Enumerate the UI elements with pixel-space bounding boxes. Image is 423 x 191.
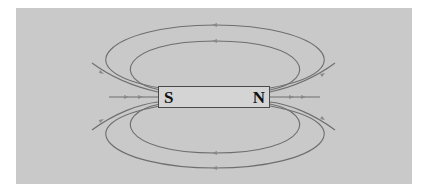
arrow-icon [301,95,306,99]
arrow-icon [212,39,217,43]
south-pole-label: S [164,88,173,108]
field-line-left-upper [92,63,158,92]
arrow-icon [289,95,294,99]
arrow-icon [320,73,325,77]
bar-magnet: S N [158,86,270,108]
arrow-icon [212,151,217,155]
arrow-icon [320,116,325,120]
arrow-icon [124,95,129,99]
field-line-bottom-inner [130,104,299,153]
arrow-icon [212,166,217,170]
field-line-top-inner [130,41,299,90]
arrow-icon [138,95,143,99]
north-pole-label: N [253,88,265,108]
arrow-icon [212,23,217,27]
